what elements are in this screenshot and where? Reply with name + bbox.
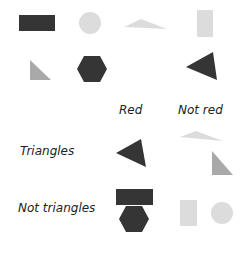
pool-light-circle xyxy=(79,12,101,34)
pool-dark-hexagon xyxy=(77,56,107,82)
dark-rectangle xyxy=(116,189,153,205)
light-circle xyxy=(211,202,233,224)
cell-not-triangles-red xyxy=(116,189,153,232)
cell-triangles-red xyxy=(116,139,146,167)
pool-dark-triangle xyxy=(186,52,217,80)
light-triangle xyxy=(180,131,223,141)
dark-triangle xyxy=(116,139,146,167)
column-header-red: Red xyxy=(119,103,143,117)
pool-light-rectangle xyxy=(197,10,213,37)
cell-not-triangles-not-red xyxy=(180,200,233,226)
gray-triangle xyxy=(212,151,233,175)
dark-hexagon xyxy=(119,206,149,232)
cell-triangles-not-red xyxy=(180,131,233,175)
pool-gray-triangle xyxy=(30,60,51,80)
row-header-not-triangles: Not triangles xyxy=(18,201,95,215)
pool-light-triangle xyxy=(124,19,167,29)
shape-pool xyxy=(19,10,217,82)
column-header-not-red: Not red xyxy=(178,103,223,117)
pool-dark-rectangle xyxy=(19,15,55,31)
light-rectangle xyxy=(180,200,197,226)
shape-sorting-diagram: Red Not red Triangles Not triangles xyxy=(0,0,246,255)
row-header-triangles: Triangles xyxy=(20,144,74,158)
